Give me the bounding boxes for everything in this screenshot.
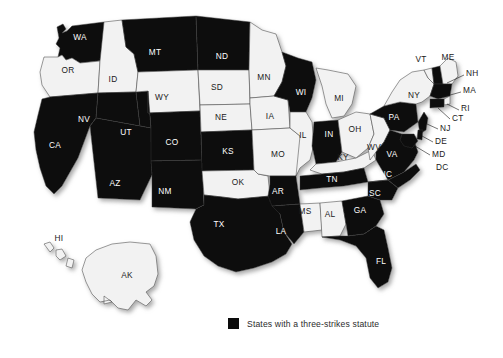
state-DE[interactable] (417, 130, 423, 140)
state-SD[interactable] (198, 70, 250, 105)
state-HI[interactable] (44, 242, 74, 268)
callout-label-NJ: NJ (440, 123, 451, 133)
state-AL[interactable] (320, 201, 346, 237)
state-NM[interactable] (151, 160, 204, 209)
state-ND[interactable] (196, 16, 250, 70)
us-three-strikes-map: WA OR CA ID NV UT AZ MT WY CO NM ND SD N… (0, 0, 503, 358)
callout-label-MA: MA (463, 85, 476, 95)
state-CT[interactable] (430, 99, 444, 108)
state-IN[interactable] (312, 120, 342, 164)
state-AR[interactable] (268, 176, 300, 206)
callout-label-NH: NH (466, 68, 478, 78)
state-MO[interactable] (252, 128, 304, 176)
states-layer (34, 16, 458, 310)
state-ME[interactable] (440, 58, 458, 84)
state-MS[interactable] (300, 203, 322, 232)
callout-label-MD: MD (432, 149, 445, 159)
state-KS[interactable] (201, 130, 254, 171)
legend-swatch-three-strikes (228, 318, 239, 329)
leader-DE (422, 136, 433, 142)
state-NE[interactable] (200, 104, 252, 132)
leader-CT (438, 108, 450, 119)
label-VT: VT (415, 54, 426, 64)
leader-RI (447, 104, 459, 110)
state-AK[interactable] (82, 242, 158, 310)
legend-label: States with a three-strikes statute (247, 319, 379, 329)
label-HI: HI (55, 233, 64, 243)
callout-label-RI: RI (461, 103, 470, 113)
legend: States with a three-strikes statute (228, 318, 379, 329)
state-MI[interactable] (316, 68, 356, 118)
map-svg: WA OR CA ID NV UT AZ MT WY CO NM ND SD N… (0, 0, 503, 358)
state-IA[interactable] (250, 96, 290, 130)
callout-label-DC: DC (436, 162, 448, 172)
state-CA[interactable] (34, 93, 98, 194)
state-AZ[interactable] (90, 118, 152, 200)
callout-label-CT: CT (452, 113, 464, 123)
leader-NJ (427, 124, 438, 129)
callout-label-DE: DE (435, 136, 447, 146)
